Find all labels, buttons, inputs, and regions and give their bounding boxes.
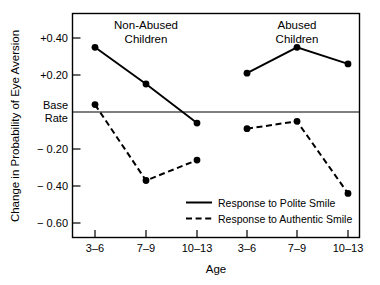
series-authentic-smile bbox=[92, 101, 352, 197]
y-tick-label-4: − 0.40 bbox=[37, 180, 68, 192]
panel-label-non-abused-line2: Children bbox=[125, 33, 168, 45]
series-authentic-smile-line-non-abused bbox=[95, 105, 197, 181]
chart-svg: Change in Probability of Eye Aversion +0… bbox=[0, 0, 380, 285]
data-point bbox=[194, 120, 201, 127]
x-axis-title: Age bbox=[206, 263, 226, 275]
panel-label-abused-line2: Children bbox=[276, 33, 319, 45]
x-tick-label-2: 10–13 bbox=[182, 242, 213, 254]
data-point bbox=[92, 44, 99, 51]
x-tick-label-1: 7–9 bbox=[137, 242, 155, 254]
data-point bbox=[143, 81, 150, 88]
data-point bbox=[92, 101, 99, 108]
y-tick-label-5: − 0.60 bbox=[37, 217, 68, 229]
series-polite-smile-line-abused bbox=[247, 47, 348, 73]
chart-figure: Change in Probability of Eye Aversion +0… bbox=[0, 0, 380, 285]
x-axis-ticks bbox=[95, 230, 348, 238]
panel-label-abused: Abused Children bbox=[276, 19, 319, 45]
legend-label-authentic-smile: Response to Authentic Smile bbox=[218, 213, 352, 225]
data-point bbox=[244, 125, 251, 132]
y-tick-label-0: +0.40 bbox=[40, 32, 68, 44]
data-point bbox=[194, 157, 201, 164]
x-axis-tick-labels: 3–6 7–9 10–13 3–6 7–9 10–13 bbox=[86, 242, 363, 254]
y-tick-label-3: − 0.20 bbox=[37, 143, 68, 155]
x-tick-label-3: 3–6 bbox=[238, 242, 256, 254]
data-point bbox=[345, 61, 352, 68]
baseline-label-line1: Base bbox=[43, 99, 68, 111]
y-axis-tick-labels: +0.40 +0.20 − 0.20 − 0.40 − 0.60 bbox=[37, 32, 68, 229]
y-axis-title: Change in Probability of Eye Aversion bbox=[9, 30, 21, 222]
panel-label-abused-line1: Abused bbox=[277, 19, 316, 31]
baseline-label: Base Rate bbox=[43, 99, 68, 124]
panel-label-non-abused-line1: Non-Abused bbox=[114, 19, 178, 31]
y-tick-label-1: +0.20 bbox=[40, 69, 68, 81]
chart-legend: Response to Polite Smile Response to Aut… bbox=[186, 197, 352, 225]
baseline-label-line2: Rate bbox=[45, 112, 68, 124]
data-point bbox=[244, 70, 251, 77]
x-tick-label-0: 3–6 bbox=[86, 242, 104, 254]
data-point bbox=[345, 190, 352, 197]
series-polite-smile bbox=[92, 44, 352, 127]
y-axis-ticks bbox=[73, 38, 81, 223]
data-point bbox=[294, 44, 301, 51]
x-tick-label-5: 10–13 bbox=[333, 242, 364, 254]
legend-label-polite-smile: Response to Polite Smile bbox=[218, 197, 335, 209]
panel-label-non-abused: Non-Abused Children bbox=[114, 19, 178, 45]
series-authentic-smile-line-abused bbox=[247, 121, 348, 193]
data-point bbox=[294, 118, 301, 125]
data-point bbox=[143, 177, 150, 184]
x-tick-label-4: 7–9 bbox=[288, 242, 306, 254]
